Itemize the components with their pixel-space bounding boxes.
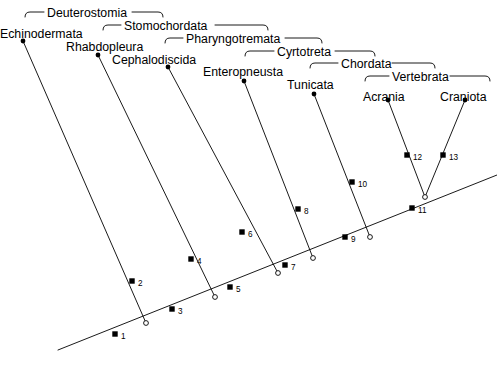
terminal-dot-tunicata: [312, 92, 317, 97]
apomorphy-square-8: [295, 206, 300, 211]
branch-craniota: [425, 100, 465, 197]
apomorphy-number-12: 12: [413, 153, 422, 162]
internal-node-node-c: [276, 271, 281, 276]
apomorphy-square-10: [349, 179, 354, 184]
internal-node-node-b: [213, 295, 218, 300]
apomorphy-square-1: [112, 331, 117, 336]
clade-bracket-cyrtotreta-right: [335, 51, 375, 56]
cladogram-figure: DeuterostomiaStomochordataPharyngotremat…: [0, 0, 497, 365]
taxon-label-enteropneusta: Enteropneusta: [203, 66, 283, 79]
clade-bracket-chordata-right: [392, 63, 435, 68]
branch-echinodermata: [23, 41, 146, 323]
apomorphy-square-11: [409, 205, 414, 210]
branch-enteropneusta: [244, 81, 313, 258]
clade-bracket-chordata-left: [310, 63, 338, 68]
apomorphy-number-5: 5: [236, 285, 241, 294]
clade-bracket-stomochordata-left: [103, 25, 121, 30]
internal-node-node-d: [311, 256, 316, 261]
clade-label-pharyngotremata: Pharyngotremata: [186, 33, 280, 46]
clade-bracket-vertebrata-right: [450, 76, 490, 81]
internal-node-layer: [144, 195, 428, 326]
apomorphy-square-4: [188, 256, 193, 261]
apomorphy-number-3: 3: [178, 307, 183, 316]
internal-node-node-f: [423, 195, 428, 200]
clade-bracket-vertebrata-left: [365, 76, 389, 81]
clade-bracket-cyrtotreta-left: [245, 51, 274, 56]
apomorphy-square-6: [239, 229, 244, 234]
taxon-label-craniota: Craniota: [440, 91, 486, 104]
apomorphy-number-4: 4: [197, 257, 202, 266]
apomorphy-square-2: [129, 278, 134, 283]
apomorphy-square-12: [404, 152, 409, 157]
apomorphy-number-13: 13: [449, 153, 458, 162]
apomorphy-square-3: [169, 306, 174, 311]
backbone-branch: [58, 175, 497, 350]
branch-cephalodiscida: [168, 67, 278, 273]
apomorphy-number-2: 2: [138, 279, 143, 288]
figure-caption: [40, 356, 470, 365]
apomorphy-number-9: 9: [351, 235, 356, 244]
taxon-label-cephalodiscida: Cephalodiscida: [112, 54, 196, 67]
terminal-dot-enteropneusta: [242, 79, 247, 84]
clade-label-chordata: Chordata: [341, 58, 392, 71]
branch-tunicata: [314, 94, 370, 237]
apomorphy-square-7: [282, 262, 287, 267]
apomorphy-number-10: 10: [358, 180, 367, 189]
apomorphy-square-5: [227, 284, 232, 289]
clade-bracket-pharyngotremata-left: [165, 38, 183, 43]
clade-label-deuterostomia: Deuterostomia: [47, 7, 127, 20]
clade-bracket-deuterostomia-left: [25, 12, 44, 17]
apomorphy-number-8: 8: [304, 207, 309, 216]
clade-bracket-deuterostomia-right: [132, 12, 163, 17]
clade-label-vertebrata: Vertebrata: [392, 71, 449, 84]
internal-node-node-e: [368, 235, 373, 240]
apomorphy-square-9: [342, 234, 347, 239]
apomorphy-number-11: 11: [418, 206, 427, 215]
apomorphy-number-7: 7: [291, 263, 296, 272]
internal-node-node-a: [144, 321, 149, 326]
apomorphy-square-13: [440, 152, 445, 157]
apomorphy-square-layer: [112, 152, 445, 336]
cladogram-drawing: [0, 0, 497, 365]
taxon-label-acrania: Acrania: [363, 91, 405, 104]
clade-bracket-stomochordata-right: [215, 25, 268, 30]
apomorphy-number-6: 6: [248, 230, 253, 239]
apomorphy-number-1: 1: [121, 332, 126, 341]
clade-label-cyrtotreta: Cyrtotreta: [277, 46, 331, 59]
clade-bracket-pharyngotremata-right: [285, 38, 322, 43]
branch-acrania: [388, 100, 425, 197]
taxon-label-tunicata: Tunicata: [287, 79, 334, 92]
